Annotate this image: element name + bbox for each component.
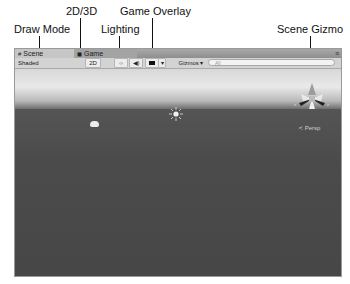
tab-scene-label: Scene: [23, 50, 43, 57]
callout-draw-mode: Draw Mode: [14, 23, 70, 35]
tab-scene[interactable]: #Scene: [15, 49, 76, 58]
tab-bar: #Scene ◼Game ≡: [15, 49, 341, 58]
lighting-toggle-button[interactable]: ☼: [114, 58, 128, 68]
image-icon: [149, 61, 155, 65]
camera-object-icon[interactable]: [90, 121, 99, 127]
search-placeholder: All: [215, 60, 221, 66]
scene-window: #Scene ◼Game ≡ Shaded 2D ☼ ◀) ▾ Gizmos ▾…: [14, 48, 342, 277]
scene-gizmo[interactable]: x z: [291, 79, 333, 119]
speaker-icon: ◀): [133, 60, 140, 66]
game-overlay-button[interactable]: [145, 58, 159, 68]
draw-mode-dropdown[interactable]: Shaded: [18, 59, 44, 67]
callout-2d3d: 2D/3D: [66, 5, 97, 17]
panel-menu-icon[interactable]: ≡: [335, 50, 339, 57]
gizmos-dropdown[interactable]: Gizmos ▾: [178, 59, 204, 67]
callout-scene-gizmo: Scene Gizmo: [277, 23, 343, 35]
projection-toggle[interactable]: ≺ Persp: [298, 124, 320, 131]
tab-game[interactable]: ◼Game: [74, 49, 137, 58]
game-overlay-dropdown[interactable]: ▾: [158, 58, 166, 68]
tab-game-label: Game: [84, 50, 103, 57]
ground-plane: [15, 109, 341, 276]
directional-light-icon[interactable]: [169, 107, 183, 121]
scene-search-input[interactable]: All: [208, 59, 335, 66]
game-pacman-icon: ◼: [77, 51, 82, 57]
callout-game-overlay: Game Overlay: [120, 5, 191, 17]
gizmo-z-label: z: [327, 102, 329, 107]
gizmo-x-label: x: [294, 102, 296, 107]
scene-grid-icon: #: [18, 51, 21, 57]
audio-toggle-button[interactable]: ◀): [129, 58, 143, 68]
sun-icon: ☼: [118, 60, 124, 66]
2d-toggle-button[interactable]: 2D: [85, 58, 101, 68]
callout-lighting: Lighting: [101, 23, 140, 35]
scene-toolbar: Shaded 2D ☼ ◀) ▾ Gizmos ▾ All: [15, 58, 341, 69]
